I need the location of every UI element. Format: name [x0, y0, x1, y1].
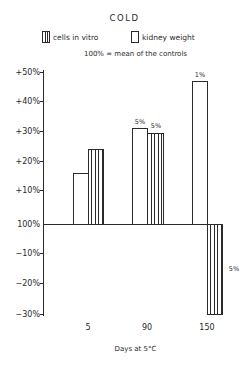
chart-note: 100% = mean of the controls [0, 50, 249, 58]
y-tick [40, 314, 44, 315]
y-tick-label: +40% [0, 97, 40, 106]
bar-150-cells-in-vitro [207, 224, 223, 315]
legend-label: kidney weight [142, 33, 195, 42]
y-tick-label: +20% [0, 157, 40, 166]
y-tick-label: +30% [0, 127, 40, 136]
bar-90-cells-in-vitro [147, 133, 164, 225]
y-axis [43, 70, 44, 316]
y-tick [40, 72, 44, 73]
y-tick-label: 100% [0, 220, 40, 229]
bar-5-kidney-weight [73, 173, 89, 225]
y-tick [40, 131, 44, 132]
striped-swatch-icon [42, 31, 50, 43]
legend-item-kidney-weight: kidney weight [131, 30, 195, 44]
plain-swatch-icon [131, 31, 139, 43]
y-tick [40, 283, 44, 284]
bar-150-kidney-weight [192, 81, 208, 225]
x-tick-label: 90 [132, 323, 162, 332]
bar-90-kidney-weight [132, 128, 148, 225]
chart-title: COLD [0, 13, 249, 23]
legend-item-cells-in-vitro: cells in vitro [42, 30, 98, 44]
y-tick-label: −10% [0, 249, 40, 258]
y-tick-label: +10% [0, 186, 40, 195]
annotation-150-cells: 5% [223, 265, 245, 273]
legend-label: cells in vitro [53, 33, 98, 42]
x-axis-title: Days at 5°C [0, 345, 249, 353]
bar-5-cells-in-vitro [88, 149, 104, 225]
y-tick [40, 101, 44, 102]
annotation-150-kidney: 1% [190, 71, 210, 79]
annotation-90-cells: 5% [146, 122, 166, 130]
y-tick-label: −20% [0, 279, 40, 288]
y-tick-label: −30% [0, 310, 40, 319]
y-tick [40, 253, 44, 254]
x-tick-label: 5 [73, 323, 103, 332]
y-tick [40, 190, 44, 191]
y-tick [40, 161, 44, 162]
x-tick-label: 150 [192, 323, 222, 332]
y-tick-label: +50% [0, 68, 40, 77]
